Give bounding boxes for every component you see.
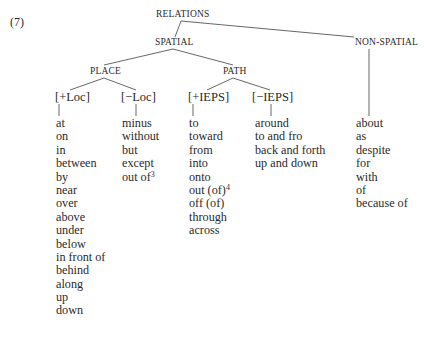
node-plus-ieps: [+IEPS] [188,90,229,105]
minus-ieps-list: around to and fro back and forth up and … [255,117,325,171]
list-item: as [356,130,408,143]
branch-place-plusloc [70,78,104,90]
branch-relations-spatial [175,21,181,37]
list-item: toward [189,130,230,143]
list-item: about [356,117,408,130]
node-minus-loc: [−Loc] [121,90,156,105]
list-item: but [122,144,159,157]
example-number: (7) [10,15,24,30]
branch-spatial-place [104,49,173,65]
list-item: under [56,224,105,237]
list-item-text: out (of) [189,183,226,197]
list-item: above [56,211,105,224]
plus-loc-list: at on in between by near over above unde… [56,117,105,318]
plus-ieps-list: to toward from into onto out (of)4 off (… [189,117,230,238]
list-item-text: out of [122,170,151,184]
footnote-marker: 3 [151,170,155,179]
list-item: except [122,157,159,170]
list-item: to and fro [255,130,325,143]
list-item: over [56,197,105,210]
list-item: up and down [255,157,325,170]
list-item: of [356,184,408,197]
node-place: PLACE [90,66,121,76]
list-item: at [56,117,105,130]
list-item: into [189,157,230,170]
list-item: on [56,130,105,143]
list-item: across [189,224,230,237]
list-item: despite [356,144,408,157]
branch-place-minusloc [104,78,136,90]
list-item: between [56,157,105,170]
list-item: onto [189,171,230,184]
minus-loc-list: minus without but except out of3 [122,117,159,184]
node-non-spatial: NON-SPATIAL [355,37,418,47]
list-item: near [56,184,105,197]
list-item: to [189,117,230,130]
branch-path-plusieps [207,78,233,90]
node-minus-ieps: [−IEPS] [252,90,293,105]
list-item: for [356,157,408,170]
non-spatial-list: about as despite for with of because of [356,117,408,211]
node-relations: RELATIONS [156,9,210,19]
node-path: PATH [223,66,247,76]
list-item: up [56,291,105,304]
list-item: minus [122,117,159,130]
branch-relations-nonspatial [181,21,354,37]
list-item: out (of)4 [189,184,230,197]
list-item: because of [356,197,408,210]
list-item: with [356,171,408,184]
branch-spatial-path [173,49,233,65]
list-item: without [122,130,159,143]
list-item: out of3 [122,171,159,184]
list-item: down [56,304,105,317]
list-item: in front of [56,251,105,264]
list-item: from [189,144,230,157]
node-plus-loc: [+Loc] [55,90,90,105]
footnote-marker: 4 [226,183,230,192]
list-item: along [56,278,105,291]
list-item: below [56,238,105,251]
node-spatial: SPATIAL [155,37,194,47]
list-item: around [255,117,325,130]
list-item: behind [56,264,105,277]
list-item: through [189,211,230,224]
list-item: by [56,171,105,184]
list-item: off (of) [189,197,230,210]
list-item: back and forth [255,144,325,157]
branch-path-minusieps [233,78,270,90]
list-item: in [56,144,105,157]
